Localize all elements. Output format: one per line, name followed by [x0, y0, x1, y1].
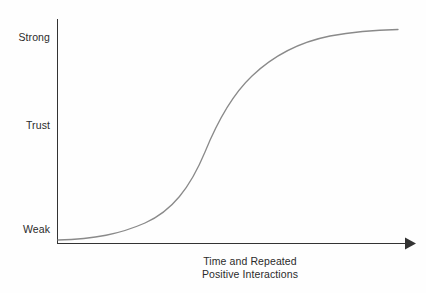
y-axis-label-weak: Weak	[0, 223, 50, 235]
x-axis-arrow-icon	[405, 238, 416, 250]
chart-canvas: Strong Trust Weak Time and Repeated Posi…	[0, 0, 426, 293]
x-axis-title-line-2: Positive Interactions	[150, 268, 350, 281]
y-axis-label-strong: Strong	[0, 31, 50, 43]
chart-plot-area	[0, 0, 426, 293]
x-axis-title: Time and Repeated Positive Interactions	[150, 255, 350, 280]
trust-curve-line	[58, 30, 398, 241]
x-axis-title-line-1: Time and Repeated	[150, 255, 350, 268]
y-axis-label-trust: Trust	[0, 119, 50, 131]
